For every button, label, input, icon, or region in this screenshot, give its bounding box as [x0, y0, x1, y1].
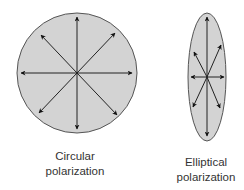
circular-polarization-label: Circular polarization [35, 149, 115, 179]
circular-polarization-figure [17, 13, 137, 133]
label-line: Circular [35, 149, 115, 164]
elliptical-polarization-figure [188, 13, 226, 141]
label-line: polarization [166, 170, 244, 185]
elliptical-polarization-label: Elliptical polarization [166, 155, 244, 185]
label-line: Elliptical [166, 155, 244, 170]
label-line: polarization [35, 164, 115, 179]
